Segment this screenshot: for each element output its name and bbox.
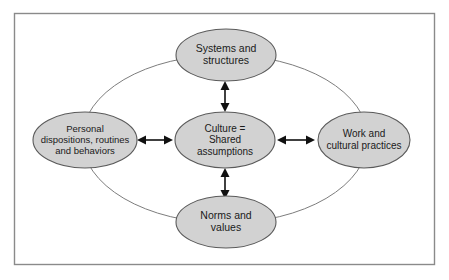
diagram-root: Systems andstructures Personaldispositio… (0, 0, 449, 280)
culture-model-diagram: Systems andstructures Personaldispositio… (0, 0, 449, 280)
node-systems-and-structures[interactable]: Systems andstructures (176, 29, 276, 81)
node-norms-and-values[interactable]: Norms andvalues (176, 196, 276, 248)
node-work-and-cultural-practices[interactable]: Work andcultural practices (318, 112, 410, 168)
node-label-systems-and-structures: Systems andstructures (196, 42, 257, 66)
node-personal-dispositions[interactable]: Personaldispositions, routinesand behavi… (33, 112, 137, 168)
node-culture-shared-assumptions[interactable]: Culture =Sharedassumptions (175, 112, 275, 168)
